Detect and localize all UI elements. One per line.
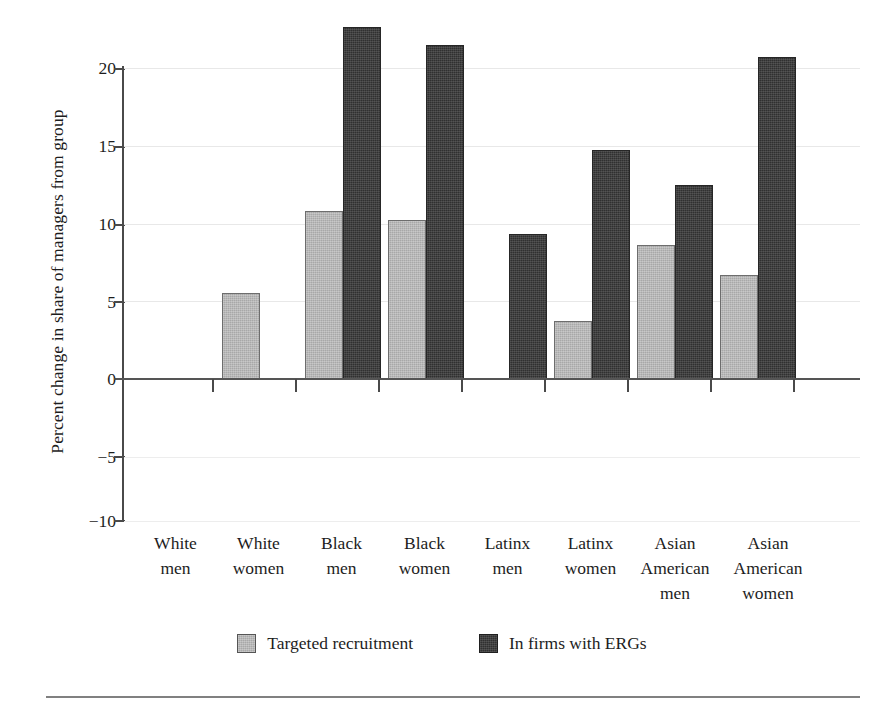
x-tick-mark-1 — [212, 379, 214, 392]
legend-item-targeted-recruitment: Targeted recruitment — [237, 633, 413, 654]
x-label-line: Latinx — [549, 531, 632, 556]
bar-latinx-men-in-firms-with-ergs — [509, 234, 547, 379]
chart-legend: Targeted recruitment In firms with ERGs — [0, 633, 884, 654]
x-category-label-white-men: White men — [134, 531, 217, 581]
x-label-line: Asian — [718, 531, 818, 556]
x-label-line: men — [630, 581, 720, 606]
bar-group-black-men — [300, 60, 383, 379]
x-tick-mark-8 — [793, 379, 795, 392]
bar-black-women-in-firms-with-ergs — [426, 45, 464, 379]
bar-group-white-men — [134, 60, 217, 379]
x-tick-mark-2 — [295, 379, 297, 392]
gridline-neg10 — [124, 521, 860, 522]
x-label-line: women — [217, 556, 300, 581]
x-label-line: Latinx — [466, 531, 549, 556]
x-category-label-white-women: White women — [217, 531, 300, 581]
y-tick-label-neg10: −10 — [89, 513, 116, 531]
x-label-line: American — [630, 556, 720, 581]
x-category-label-asian-american-women: Asian American women — [718, 531, 818, 606]
x-label-line: men — [300, 556, 383, 581]
x-label-line: Black — [383, 531, 466, 556]
x-label-line: men — [466, 556, 549, 581]
x-tick-mark-5 — [544, 379, 546, 392]
bar-black-men-in-firms-with-ergs — [343, 27, 381, 379]
plot-area — [124, 60, 860, 379]
x-label-line: women — [549, 556, 632, 581]
x-category-label-asian-american-men: Asian American men — [630, 531, 720, 606]
bar-latinx-women-targeted-recruitment — [554, 321, 592, 379]
x-tick-mark-6 — [627, 379, 629, 392]
bar-asian-american-women-in-firms-with-ergs — [758, 57, 796, 379]
x-category-label-latinx-men: Latinx men — [466, 531, 549, 581]
x-tick-mark-3 — [378, 379, 380, 392]
x-label-line: American — [718, 556, 818, 581]
x-tick-mark-7 — [710, 379, 712, 392]
bar-group-latinx-women — [549, 60, 632, 379]
x-label-line: women — [383, 556, 466, 581]
y-axis-tick-labels: 20 15 10 5 0 −5 −10 — [56, 0, 116, 711]
bar-group-latinx-men — [466, 60, 549, 379]
legend-label-targeted-recruitment: Targeted recruitment — [267, 633, 413, 654]
bar-group-white-women — [217, 60, 300, 379]
bar-black-men-targeted-recruitment — [305, 211, 343, 379]
x-category-label-black-men: Black men — [300, 531, 383, 581]
x-label-line: Black — [300, 531, 383, 556]
x-category-label-black-women: Black women — [383, 531, 466, 581]
bar-group-asian-american-women — [715, 60, 798, 379]
legend-swatch-icon-targeted-recruitment — [237, 634, 256, 653]
bar-group-asian-american-men — [632, 60, 715, 379]
x-category-label-latinx-women: Latinx women — [549, 531, 632, 581]
bar-asian-american-women-targeted-recruitment — [720, 275, 758, 379]
x-label-line: White — [134, 531, 217, 556]
x-label-line: women — [718, 581, 818, 606]
x-label-line: White — [217, 531, 300, 556]
bar-latinx-women-in-firms-with-ergs — [592, 150, 630, 379]
x-label-line: Asian — [630, 531, 720, 556]
bar-asian-american-men-targeted-recruitment — [637, 245, 675, 379]
bar-black-women-targeted-recruitment — [388, 220, 426, 379]
legend-item-in-firms-with-ergs: In firms with ERGs — [479, 633, 647, 654]
legend-swatch-icon-in-firms-with-ergs — [479, 634, 498, 653]
bottom-divider — [46, 696, 860, 698]
x-label-line: men — [134, 556, 217, 581]
negative-axis-area — [124, 379, 860, 521]
legend-label-in-firms-with-ergs: In firms with ERGs — [509, 633, 647, 654]
gridline-neg5 — [124, 457, 860, 458]
x-tick-mark-4 — [461, 379, 463, 392]
bar-chart-figure: Percent change in share of managers from… — [0, 0, 884, 711]
bar-white-women-targeted-recruitment — [222, 293, 260, 379]
bar-asian-american-men-in-firms-with-ergs — [675, 185, 713, 379]
bar-group-black-women — [383, 60, 466, 379]
